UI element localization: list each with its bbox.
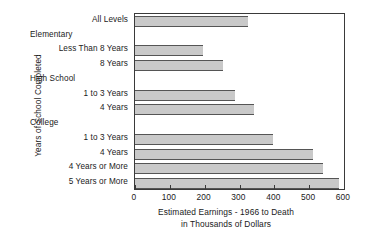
category-label: 8 Years [100, 59, 128, 68]
category-label: 4 Years [100, 103, 128, 112]
category-label: 4 Years or More [69, 162, 128, 171]
bar [135, 134, 273, 145]
x-axis-title-line1: Estimated Earnings - 1966 to Death [96, 207, 356, 219]
x-axis-tick [170, 185, 171, 190]
x-axis-tick [205, 185, 206, 190]
x-axis-tick-label: 600 [323, 192, 363, 202]
group-header-label: Elementary [30, 30, 72, 39]
category-label: Less Than 8 Years [59, 44, 128, 53]
x-axis-title-line2: in Thousands of Dollars [96, 219, 356, 231]
category-label-column: All LevelsElementaryLess Than 8 Years8 Y… [26, 13, 131, 190]
group-header-label: College [30, 118, 58, 127]
bar [135, 149, 313, 160]
x-axis-tick [135, 185, 136, 190]
x-axis-title: Estimated Earnings - 1966 to Death in Th… [96, 207, 356, 230]
category-label: 5 Years or More [69, 177, 128, 186]
plot-area [134, 13, 345, 190]
group-header-label: High School [30, 74, 75, 83]
category-label: All Levels [92, 15, 128, 24]
bar [135, 104, 254, 115]
category-label: 1 to 3 Years [84, 133, 128, 142]
x-axis-tick [309, 185, 310, 190]
x-axis-tick [274, 185, 275, 190]
x-axis-tick [240, 185, 241, 190]
bar [135, 16, 248, 27]
bar [135, 45, 203, 56]
category-label: 4 Years [100, 148, 128, 157]
bar [135, 90, 235, 101]
bar-chart-figure: Years of School Completed All LevelsElem… [0, 0, 369, 245]
bar [135, 163, 323, 174]
category-label: 1 to 3 Years [84, 89, 128, 98]
x-axis-tick [344, 185, 345, 190]
bar [135, 60, 223, 71]
